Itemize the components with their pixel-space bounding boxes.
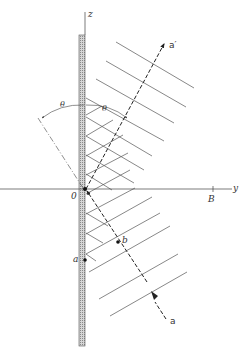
wavefront-line [86, 213, 108, 226]
z-axis-label: z [87, 9, 93, 19]
incident-wavefronts [86, 106, 187, 316]
wavefront-line [86, 213, 160, 254]
point-a [83, 258, 87, 262]
wavefront-line [116, 42, 194, 88]
wavefront-line [86, 136, 144, 170]
wavefront-line [86, 254, 96, 261]
y-axis-label: y [232, 183, 239, 193]
normal-line [38, 118, 83, 188]
wavefront-line [86, 153, 128, 175]
reflected-wavefronts [86, 42, 194, 190]
wavefront-line [86, 197, 152, 234]
angle-left-label: θ [60, 100, 65, 109]
wavefront-line [106, 61, 186, 107]
wavefront-line [86, 233, 103, 243]
wavefront-line [86, 170, 130, 194]
point-a-label: a [73, 254, 78, 264]
wavefront-line [96, 79, 174, 123]
reflected-segments [86, 213, 108, 261]
incident-ray-label: a [170, 316, 176, 326]
wavefront-line [99, 254, 178, 299]
point-b [116, 240, 120, 244]
wavefront-line [86, 98, 164, 141]
incident-arrowhead [151, 291, 158, 300]
incident-ray-lower [155, 302, 166, 319]
origin-label: 0 [71, 191, 77, 201]
angle-right-label: θ [102, 104, 107, 113]
point-b-label: b [122, 235, 128, 245]
diagram: z y B θ θ a′ a 0 b a [0, 0, 246, 353]
point-B-label: B [207, 194, 215, 204]
wavefront-line [86, 106, 102, 115]
wavefront-line [110, 272, 187, 316]
wavefront-line [86, 135, 123, 156]
origin-point [83, 187, 87, 191]
wavefront-line [86, 120, 113, 136]
reflected-ray-label: a′ [169, 40, 177, 50]
